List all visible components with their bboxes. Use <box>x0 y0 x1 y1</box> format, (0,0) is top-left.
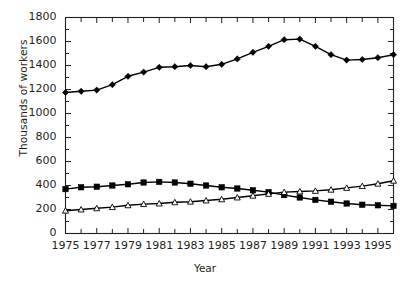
data-point-diamond <box>344 57 350 63</box>
data-point-square <box>94 184 99 189</box>
data-point-square <box>125 182 130 187</box>
data-point-diamond <box>250 49 256 55</box>
data-point-square <box>375 203 380 208</box>
data-point-square <box>297 195 302 200</box>
data-point-square <box>313 197 318 202</box>
data-point-diamond <box>125 73 131 79</box>
data-point-diamond <box>265 43 271 49</box>
data-point-square <box>328 199 333 204</box>
data-point-diamond <box>187 62 193 68</box>
data-point-square <box>360 202 365 207</box>
data-point-diamond <box>78 88 84 94</box>
data-point-square <box>344 201 349 206</box>
data-point-diamond <box>140 69 146 75</box>
data-point-square <box>203 183 208 188</box>
data-point-square <box>63 186 68 191</box>
data-point-diamond <box>109 82 115 88</box>
data-point-square <box>141 180 146 185</box>
data-point-square <box>110 183 115 188</box>
data-point-diamond <box>359 56 365 62</box>
data-point-square <box>157 179 162 184</box>
data-point-square <box>78 185 83 190</box>
data-point-diamond <box>172 64 178 70</box>
data-point-diamond <box>234 56 240 62</box>
data-point-diamond <box>156 64 162 70</box>
data-point-square <box>391 203 396 208</box>
data-point-diamond <box>375 55 381 61</box>
chart-figure: Thousands of workers Year 02004006008001… <box>0 0 410 287</box>
data-point-square <box>219 185 224 190</box>
plot-area <box>0 0 410 287</box>
data-point-diamond <box>297 36 303 42</box>
data-point-square <box>235 186 240 191</box>
data-point-diamond <box>312 43 318 49</box>
data-point-diamond <box>62 89 68 95</box>
data-point-diamond <box>203 64 209 70</box>
data-point-square <box>172 180 177 185</box>
data-point-diamond <box>328 52 334 58</box>
data-point-diamond <box>390 52 396 58</box>
data-point-square <box>188 181 193 186</box>
data-point-diamond <box>281 37 287 43</box>
data-point-diamond <box>219 61 225 67</box>
data-point-diamond <box>94 87 100 93</box>
